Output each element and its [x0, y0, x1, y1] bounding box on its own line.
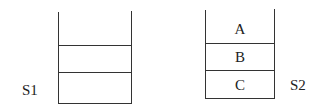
stack-s2-cell-bottom: C: [205, 78, 275, 93]
stack-s2-cell-middle: B: [205, 50, 275, 65]
stack-outlines: [0, 0, 324, 108]
stack-s1-outline: [58, 11, 132, 104]
stack-s2-cell-top: A: [205, 22, 275, 37]
stack-s2-label: S2: [290, 78, 306, 93]
stack-s1-label: S1: [22, 83, 38, 98]
